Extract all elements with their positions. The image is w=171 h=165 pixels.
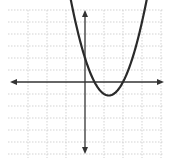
- x-axis-right-arrow-icon: [157, 79, 164, 85]
- parabola-curve: [71, 0, 148, 95]
- y-axis-down-arrow-icon: [82, 147, 88, 154]
- axes: [10, 10, 164, 154]
- parabola-graph: [0, 0, 171, 165]
- y-axis-up-arrow-icon: [82, 10, 88, 17]
- x-axis-left-arrow-icon: [10, 79, 17, 85]
